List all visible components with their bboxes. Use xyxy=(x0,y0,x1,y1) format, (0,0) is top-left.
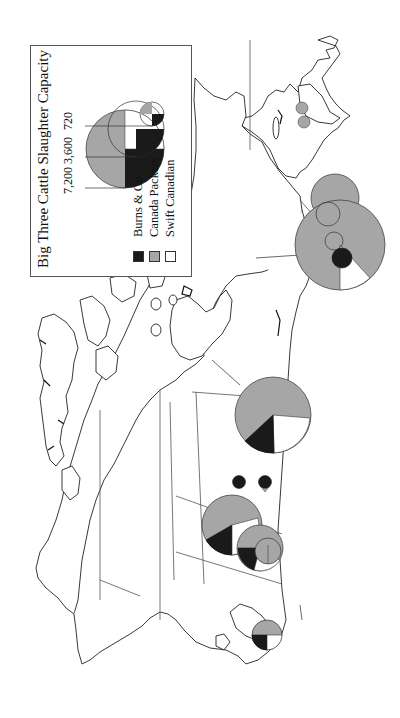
pie-vancouver xyxy=(252,620,282,650)
legend-label-swift: Swift Canadian xyxy=(163,160,178,237)
pie-montreal xyxy=(295,200,385,290)
legend: Big Three Cattle Slaughter Capacity 7,20… xyxy=(30,45,192,277)
pie-regina xyxy=(233,476,246,489)
legend-item-canada-packers: Canada Packers xyxy=(147,158,162,262)
legend-item-burns: Burns & Co. xyxy=(131,173,146,262)
swatch-swift-icon xyxy=(165,251,176,262)
pie-winnipeg xyxy=(235,377,311,453)
legend-title: Big Three Cattle Slaughter Capacity xyxy=(35,50,52,268)
scale-label-7200: 7,200 xyxy=(61,167,76,194)
pie-lethbridge xyxy=(255,538,281,564)
scale-label-720: 720 xyxy=(61,112,76,130)
legend-label-burns: Burns & Co. xyxy=(131,173,146,237)
legend-content: Big Three Cattle Slaughter Capacity 7,20… xyxy=(31,46,191,276)
swatch-canada-packers-icon xyxy=(149,251,160,262)
legend-item-swift: Swift Canadian xyxy=(163,160,178,262)
scale-label-3600: 3,600 xyxy=(61,137,76,164)
swatch-burns-icon xyxy=(133,251,144,262)
legend-label-canada-packers: Canada Packers xyxy=(147,158,162,237)
